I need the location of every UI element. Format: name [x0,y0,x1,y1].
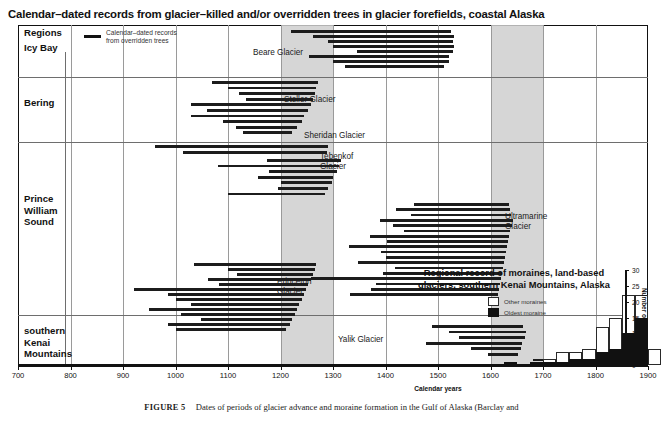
x-tick-label-1900: 1900 [640,371,657,380]
figure-caption-label: FIGURE 5 [144,403,185,412]
x-tick-1900 [648,366,649,370]
x-tick-label-1700: 1700 [535,371,552,380]
x-tick-label-1500: 1500 [430,371,447,380]
x-axis-title: Calendar years [414,385,461,392]
x-tick-label-1100: 1100 [220,371,236,380]
x-tick-label-1800: 1800 [587,371,604,380]
x-tick-800 [71,366,72,370]
x-tick-1300 [333,366,334,370]
figure-caption: FIGURE 5 Dates of periods of glacier adv… [0,402,663,412]
x-tick-700 [18,366,19,370]
figure-5: Calendar–dated records from glacier–kill… [0,0,663,421]
x-tick-label-1400: 1400 [377,371,394,380]
x-tick-1100 [228,366,229,370]
x-tick-900 [123,366,124,370]
x-tick-label-900: 900 [117,371,130,380]
x-tick-label-700: 700 [12,371,25,380]
x-tick-1500 [438,366,439,370]
x-tick-1800 [596,366,597,370]
x-tick-1400 [386,366,387,370]
x-axis-ticks-layer: 7008009001000110012001300140015001600170… [0,0,663,400]
x-tick-1600 [491,366,492,370]
x-tick-1200 [281,366,282,370]
x-tick-label-800: 800 [64,371,77,380]
x-tick-label-1200: 1200 [272,371,289,380]
x-tick-label-1000: 1000 [167,371,184,380]
x-tick-1000 [176,366,177,370]
x-tick-label-1600: 1600 [482,371,499,380]
x-tick-label-1300: 1300 [325,371,342,380]
figure-caption-text: Dates of periods of glacier advance and … [196,402,519,412]
x-tick-1700 [543,366,544,370]
